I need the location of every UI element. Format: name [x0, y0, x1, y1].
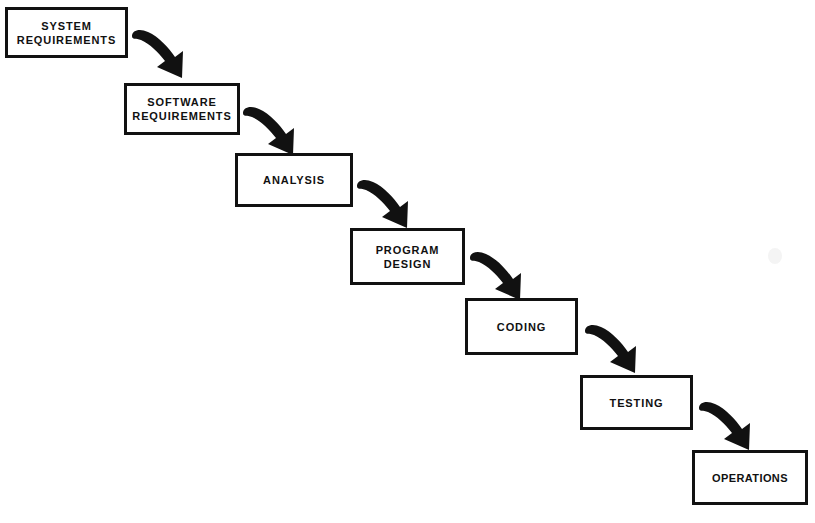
stage-label-software-requirements: SOFTWARE REQUIREMENTS: [128, 95, 235, 123]
stage-label-program-design: PROGRAM DESIGN: [372, 243, 444, 271]
stage-box-coding: CODING: [465, 298, 578, 355]
stage-box-program-design: PROGRAM DESIGN: [350, 228, 465, 285]
stage-box-testing: TESTING: [580, 375, 693, 430]
stage-label-operations: OPERATIONS: [708, 471, 792, 485]
connector-arrow-1: [132, 30, 183, 78]
connector-arrow-6: [699, 402, 750, 450]
connector-arrow-3: [357, 180, 408, 228]
stage-box-system-requirements: SYSTEM REQUIREMENTS: [5, 7, 128, 58]
stage-box-software-requirements: SOFTWARE REQUIREMENTS: [124, 83, 240, 135]
scan-artifact: [768, 248, 782, 264]
connector-arrow-4: [470, 252, 521, 300]
stage-box-operations: OPERATIONS: [692, 450, 808, 505]
connector-arrow-2: [243, 107, 294, 155]
waterfall-diagram: SYSTEM REQUIREMENTS SOFTWARE REQUIREMENT…: [0, 0, 815, 523]
stage-label-testing: TESTING: [606, 396, 668, 410]
stage-label-analysis: ANALYSIS: [259, 173, 329, 187]
stage-box-analysis: ANALYSIS: [235, 153, 353, 207]
connector-arrow-5: [585, 325, 636, 373]
stage-label-system-requirements: SYSTEM REQUIREMENTS: [13, 19, 120, 47]
stage-label-coding: CODING: [493, 320, 550, 334]
